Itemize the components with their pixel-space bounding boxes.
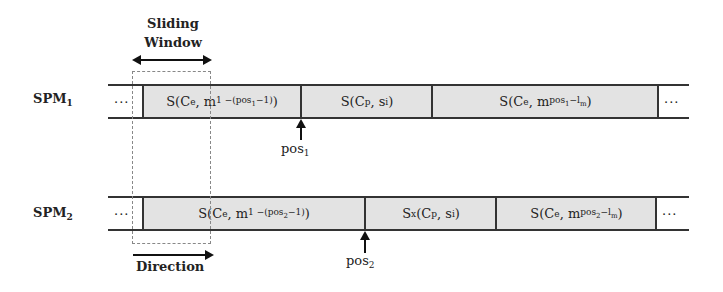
- direction-label: Direction: [136, 259, 204, 274]
- direction-arrow-icon: [0, 0, 723, 292]
